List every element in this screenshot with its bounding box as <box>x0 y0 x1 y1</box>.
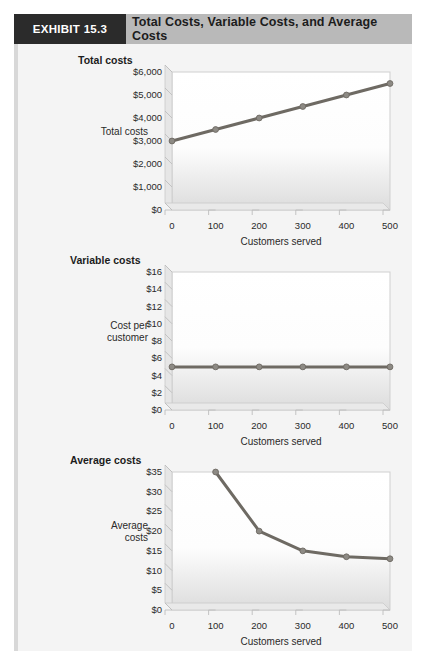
y-tick-label: $6 <box>104 352 162 363</box>
x-axis-label: Customers served <box>172 636 390 647</box>
y-tick-label: $12 <box>104 301 162 312</box>
x-tick-label: 0 <box>152 220 192 231</box>
x-tick-label: 200 <box>239 620 279 631</box>
x-axis-label: Customers served <box>172 436 390 447</box>
x-tick-label: 300 <box>283 220 323 231</box>
exhibit-number-label: EXHIBIT 15.3 <box>33 23 108 35</box>
x-tick-label: 400 <box>326 420 366 431</box>
y-tick-label: $4 <box>104 370 162 381</box>
panel-left-rule <box>14 44 18 651</box>
y-tick-label: $20 <box>104 525 162 536</box>
x-tick-label: 400 <box>326 220 366 231</box>
chart-title: Total costs <box>78 54 133 66</box>
x-tick-label: 200 <box>239 420 279 431</box>
y-tick-label: $0 <box>104 404 162 415</box>
y-tick-label: $1,000 <box>104 181 162 192</box>
y-tick-label: $0 <box>104 204 162 215</box>
x-tick-label: 300 <box>283 620 323 631</box>
y-tick-label: $5,000 <box>104 89 162 100</box>
x-tick-label: 500 <box>370 620 410 631</box>
exhibit-title-label: Total Costs, Variable Costs, and Average… <box>132 15 406 43</box>
x-tick-label: 100 <box>196 220 236 231</box>
exhibit-number-badge: EXHIBIT 15.3 <box>14 14 126 44</box>
x-tick-label: 0 <box>152 620 192 631</box>
y-tick-label: $2,000 <box>104 158 162 169</box>
y-tick-label: $6,000 <box>104 66 162 77</box>
y-tick-label: $10 <box>104 565 162 576</box>
y-tick-label: $30 <box>104 486 162 497</box>
x-tick-label: 300 <box>283 420 323 431</box>
x-tick-label: 0 <box>152 420 192 431</box>
y-tick-label: $4,000 <box>104 112 162 123</box>
x-tick-label: 200 <box>239 220 279 231</box>
x-tick-label: 400 <box>326 620 366 631</box>
chart-title: Average costs <box>70 454 141 466</box>
x-tick-label: 500 <box>370 220 410 231</box>
y-tick-label: $16 <box>104 266 162 277</box>
x-tick-label: 100 <box>196 420 236 431</box>
x-axis-label: Customers served <box>172 236 390 247</box>
y-tick-label: $5 <box>104 584 162 595</box>
y-tick-label: $8 <box>104 335 162 346</box>
y-tick-label: $25 <box>104 505 162 516</box>
x-tick-label: 500 <box>370 420 410 431</box>
exhibit-panel-body <box>18 44 412 651</box>
y-tick-label: $0 <box>104 604 162 615</box>
y-tick-label: $2 <box>104 387 162 398</box>
exhibit-header: EXHIBIT 15.3 Total Costs, Variable Costs… <box>14 14 412 44</box>
x-tick-label: 100 <box>196 620 236 631</box>
y-tick-label: $15 <box>104 545 162 556</box>
exhibit-title: Total Costs, Variable Costs, and Average… <box>132 14 406 44</box>
chart-title: Variable costs <box>70 254 141 266</box>
y-tick-label: $35 <box>104 466 162 477</box>
y-tick-label: $14 <box>104 283 162 294</box>
y-tick-label: $10 <box>104 318 162 329</box>
y-tick-label: $3,000 <box>104 135 162 146</box>
exhibit-page: EXHIBIT 15.3 Total Costs, Variable Costs… <box>0 0 426 665</box>
